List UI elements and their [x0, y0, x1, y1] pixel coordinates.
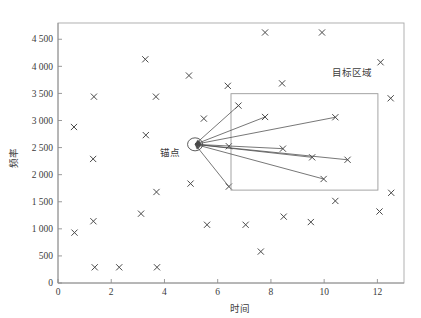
plot-canvas: 024681012 05001 0001 5002 0002 5003 0003…	[0, 0, 421, 318]
data-point-marker	[90, 218, 96, 224]
data-point-marker	[281, 214, 287, 220]
data-point-marker	[71, 230, 77, 236]
anchor-arrow	[195, 106, 238, 145]
data-point-marker	[388, 190, 394, 196]
anchor-arrow	[195, 117, 335, 145]
y-axis-title: 频率	[8, 148, 19, 168]
data-point-marker	[142, 56, 148, 62]
y-tick-label: 4 500	[32, 34, 54, 44]
x-tick-label: 8	[269, 287, 274, 297]
data-point-marker	[332, 198, 338, 204]
data-point-marker	[225, 83, 231, 89]
scatter-chart-figure: 024681012 05001 0001 5002 0002 5003 0003…	[0, 0, 421, 318]
x-tick-label: 4	[162, 287, 167, 297]
data-point-marker	[377, 59, 383, 65]
data-point-markers	[71, 29, 394, 270]
target-region-rect	[231, 94, 378, 190]
data-point-marker	[153, 189, 159, 195]
data-point-marker	[187, 181, 193, 187]
data-point-marker	[308, 219, 314, 225]
x-tick-label: 6	[215, 287, 220, 297]
data-point-marker	[154, 264, 160, 270]
data-point-marker	[376, 208, 382, 214]
data-point-marker	[91, 94, 97, 100]
y-tick-label: 500	[39, 251, 54, 261]
data-point-marker	[92, 264, 98, 270]
data-point-marker	[143, 132, 149, 138]
x-axis-title: 时间	[230, 303, 250, 314]
data-point-marker	[262, 29, 268, 35]
data-point-marker	[243, 222, 249, 228]
y-tick-label: 1 000	[32, 224, 54, 234]
anchor-arrow	[195, 144, 324, 179]
data-point-marker	[388, 95, 394, 101]
data-point-marker	[201, 116, 207, 122]
data-point-marker	[204, 222, 210, 228]
y-tick-label: 1 500	[32, 197, 54, 207]
x-tick-label: 12	[373, 287, 383, 297]
y-tick-label: 2 000	[32, 170, 54, 180]
y-tick-label: 4 000	[32, 62, 54, 72]
data-point-marker	[90, 156, 96, 162]
y-tick-label: 0	[48, 278, 53, 288]
data-point-marker	[138, 211, 144, 217]
x-axis-ticks: 024681012	[56, 279, 383, 297]
data-point-marker	[279, 80, 285, 86]
x-tick-label: 10	[319, 287, 329, 297]
data-point-marker	[319, 29, 325, 35]
x-tick-label: 0	[56, 287, 61, 297]
anchor-point-label: 锚点	[160, 147, 180, 158]
data-point-marker	[153, 94, 159, 100]
anchor-arrows	[195, 106, 348, 187]
y-axis-ticks: 05001 0001 5002 0002 5003 0003 5004 0004…	[32, 34, 62, 288]
target-region-label: 目标区域	[332, 67, 372, 78]
data-point-marker	[258, 248, 264, 254]
anchor-arrow	[195, 117, 265, 144]
y-tick-label: 2 500	[32, 143, 54, 153]
y-tick-label: 3 000	[32, 116, 54, 126]
x-tick-label: 2	[109, 287, 114, 297]
data-point-marker	[71, 124, 77, 130]
anchor-arrow	[195, 144, 229, 186]
y-tick-label: 3 500	[32, 89, 54, 99]
data-point-marker	[116, 264, 122, 270]
data-point-marker	[186, 72, 192, 78]
